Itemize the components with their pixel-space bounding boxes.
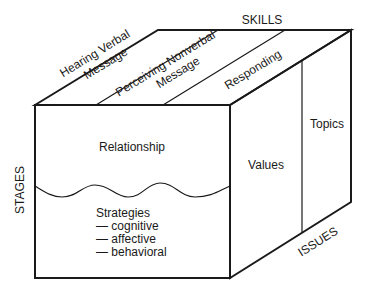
axis-label-stages: STAGES xyxy=(13,166,27,214)
top-face: Hearing Verbal Message Perceiving Nonver… xyxy=(35,27,351,112)
top-column-responding: Responding xyxy=(222,47,284,92)
cube-svg: Hearing Verbal Message Perceiving Nonver… xyxy=(0,0,367,292)
front-face: Relationship Strategies — cognitive — af… xyxy=(35,105,230,278)
axis-label-stages-group: STAGES xyxy=(13,166,27,214)
topics-label: Topics xyxy=(310,117,344,131)
strategy-behavioral: — behavioral xyxy=(96,245,167,259)
strategy-cognitive: — cognitive xyxy=(96,219,159,233)
top-column-perceiving: Perceiving Nonverbal Message xyxy=(113,28,225,111)
values-label: Values xyxy=(248,158,284,172)
relationship-label: Relationship xyxy=(99,140,165,154)
responding-label: Responding xyxy=(222,47,284,92)
stage-wave-divider xyxy=(35,183,230,197)
axis-label-skills: SKILLS xyxy=(242,13,283,27)
strategy-affective: — affective xyxy=(96,232,156,246)
strategies-title: Strategies xyxy=(96,206,150,220)
cube-diagram: Hearing Verbal Message Perceiving Nonver… xyxy=(0,0,367,292)
